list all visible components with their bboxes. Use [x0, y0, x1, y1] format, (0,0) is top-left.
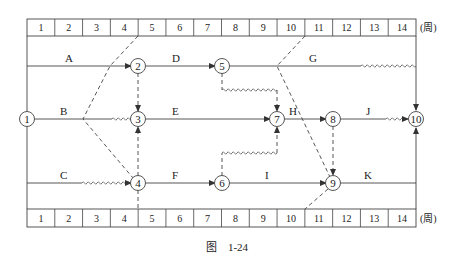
bottom_scale-week-4: 4 [122, 213, 127, 224]
activity-a-label: A [65, 52, 73, 64]
top_scale-week-9: 9 [261, 22, 266, 33]
node-label: 1 [24, 113, 30, 125]
activity-h-label: H [289, 105, 297, 117]
top_scale-week-5: 5 [150, 22, 155, 33]
activity-b-label: B [60, 105, 67, 117]
activity-g: G [229, 52, 416, 67]
activity-d: D [145, 52, 215, 66]
node-label: 9 [330, 177, 336, 189]
bottom_scale-week-7: 7 [205, 213, 210, 224]
top_scale-week-1: 1 [38, 22, 43, 33]
top-unit-label: (周) [420, 22, 437, 34]
activity-i-label: I [265, 169, 269, 181]
bottom_scale-week-1: 1 [38, 213, 43, 224]
activity-j-label: J [366, 105, 371, 117]
activity-k: K [340, 169, 416, 183]
bottom_scale-week-11: 11 [314, 213, 324, 224]
activity-d-label: D [172, 52, 180, 64]
activity-f-label: F [172, 169, 178, 181]
node-9: 9 [326, 176, 341, 191]
top_scale-week-11: 11 [314, 22, 324, 33]
b-free-float-wave [112, 118, 132, 121]
check-line-week-10-lower [305, 189, 328, 209]
node-7: 7 [270, 112, 285, 127]
node-label: 3 [135, 113, 141, 125]
activity-k-label: K [364, 169, 372, 181]
node-label: 2 [135, 60, 141, 72]
node-label: 8 [330, 113, 336, 125]
bottom_scale-week-14: 14 [397, 213, 407, 224]
top_scale-week-13: 13 [369, 22, 379, 33]
node-5: 5 [215, 59, 230, 74]
bottom_scale-week-13: 13 [369, 213, 379, 224]
bottom_scale-week-5: 5 [150, 213, 155, 224]
bottom_scale-week-10: 10 [286, 213, 296, 224]
activity-b: B [34, 105, 132, 120]
node-10: 10 [409, 112, 424, 127]
c-free-float-wave [82, 182, 132, 185]
bottom_scale-week-2: 2 [66, 213, 71, 224]
bottom_scale-week-6: 6 [177, 213, 182, 224]
node-6: 6 [215, 176, 230, 191]
activity-a: A [27, 52, 131, 66]
nodes: 12345678910 [20, 59, 424, 191]
top_scale-week-6: 6 [177, 22, 182, 33]
top_scale-week-2: 2 [66, 22, 71, 33]
top_scale-week-4: 4 [122, 22, 127, 33]
g-free-float-wave [361, 65, 416, 68]
top_scale-week-8: 8 [233, 22, 238, 33]
activity-f: F [145, 169, 215, 183]
figure-caption: 图 1-24 [206, 241, 249, 253]
check-line-week-4 [83, 36, 138, 178]
bottom-unit-label: (周) [420, 213, 437, 225]
dummy-6-7 [222, 127, 277, 176]
activity-g-label: G [309, 52, 317, 64]
j-free-float-wave [386, 118, 406, 121]
activity-i: I [229, 169, 326, 183]
dummy-5-7 [222, 73, 277, 111]
top_scale-week-3: 3 [94, 22, 99, 33]
node-label: 5 [219, 60, 225, 72]
bottom-time-scale: 1234567891011121314 (周) [27, 209, 437, 227]
network-diagram: 1234567891011121314 (周) 1234567891011121… [0, 0, 454, 261]
bottom_scale-week-9: 9 [261, 213, 266, 224]
activity-c: C [27, 169, 132, 184]
activity-e: E [145, 105, 270, 119]
node-label: 4 [135, 177, 141, 189]
node-3: 3 [131, 112, 146, 127]
top-time-scale: 1234567891011121314 (周) [27, 19, 437, 36]
node-2: 2 [131, 59, 146, 74]
node-4: 4 [131, 176, 146, 191]
top_scale-week-12: 12 [342, 22, 352, 33]
bottom_scale-week-12: 12 [342, 213, 352, 224]
activity-e-label: E [172, 105, 179, 117]
top_scale-week-7: 7 [205, 22, 210, 33]
node-label: 10 [411, 113, 423, 125]
node-label: 7 [274, 113, 280, 125]
activity-j: J [340, 105, 408, 120]
activity-h: H [284, 105, 326, 119]
bottom_scale-week-8: 8 [233, 213, 238, 224]
check-line-week-10-upper [277, 36, 330, 177]
node-label: 6 [219, 177, 225, 189]
node-1: 1 [20, 112, 35, 127]
bottom_scale-week-3: 3 [94, 213, 99, 224]
top_scale-week-14: 14 [397, 22, 407, 33]
activity-c-label: C [60, 169, 67, 181]
top_scale-week-10: 10 [286, 22, 296, 33]
node-8: 8 [326, 112, 341, 127]
